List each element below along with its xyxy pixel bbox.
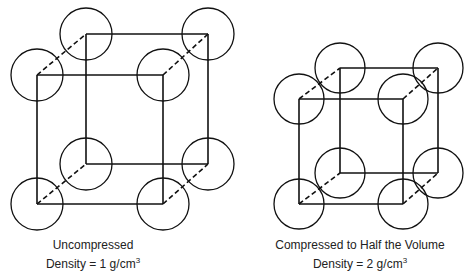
compressed-title: Compressed to Half the Volume (260, 238, 460, 253)
compressed-caption: Compressed to Half the Volume Density = … (260, 238, 460, 272)
cube-depth-edge (299, 68, 340, 99)
cubic-lattice-diagrams (0, 0, 475, 278)
uncompressed-density: Density = 1 g/cm3 (33, 253, 153, 272)
cube-depth-edge (37, 164, 86, 204)
cube-depth-edge (299, 173, 340, 204)
cube-depth-edge (37, 34, 86, 75)
uncompressed-caption: Uncompressed Density = 1 g/cm3 (33, 238, 153, 272)
uncompressed-title: Uncompressed (33, 238, 153, 253)
cube-depth-edge (163, 34, 208, 75)
cube-depth-edge (403, 68, 438, 99)
cube-depth-edge (163, 164, 208, 204)
cube-depth-edge (403, 173, 438, 204)
compressed-density: Density = 2 g/cm3 (260, 253, 460, 272)
